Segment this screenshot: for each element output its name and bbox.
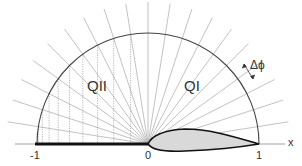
- airfoil-shape: [148, 129, 259, 151]
- x-axis-label: x: [288, 137, 294, 148]
- projection-verticals: [38, 34, 130, 144]
- delta-phi-label: Δϕ: [250, 59, 265, 71]
- region-label-q1: QI: [184, 78, 200, 93]
- region-label-q2: QII: [87, 78, 107, 93]
- airfoil-polar-diagram: [0, 0, 302, 166]
- radial-rays: [8, 2, 289, 144]
- ray-line: [13, 100, 148, 144]
- tick-label-1: 1: [256, 150, 262, 161]
- tick-label-0: 0: [145, 150, 151, 161]
- tick-label-minus-1: -1: [30, 150, 40, 161]
- ray-line: [104, 9, 148, 144]
